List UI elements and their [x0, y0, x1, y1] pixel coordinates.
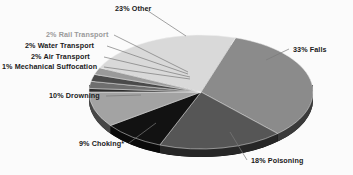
pie-chart: 23% Other 33% Falls 18% Poisoning 9% Cho… — [0, 0, 353, 175]
callout-label-poisoning: 18% Poisoning — [251, 156, 303, 165]
pie-top-slices — [89, 35, 313, 149]
callout-label-falls: 33% Falls — [293, 45, 327, 54]
callout-label-drowning: 10% Drowning — [49, 91, 100, 100]
callout-label-other: 23% Other — [115, 4, 151, 13]
pie-chart-graphic — [0, 0, 353, 175]
callout-label-mechanical-suffocation: 1% Mechanical Suffocation — [2, 62, 97, 71]
callout-label-rail-transport: 2% Rail Transport — [46, 30, 108, 39]
callout-label-air-transport: 2% Air Transport — [31, 52, 90, 61]
callout-label-water-transport: 2% Water Transport — [25, 41, 94, 50]
callout-label-choking: 9% Choking* — [79, 139, 124, 148]
